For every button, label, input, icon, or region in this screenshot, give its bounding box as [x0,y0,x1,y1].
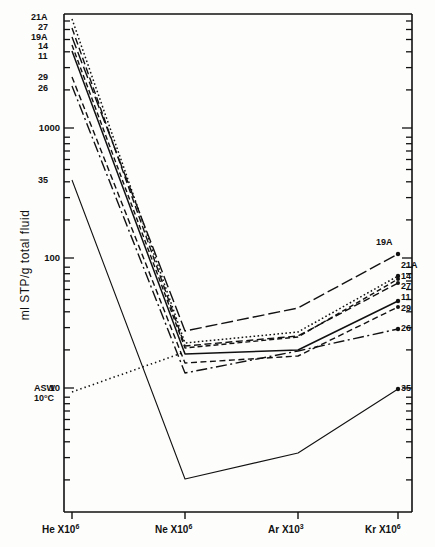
y-tick-label-1000: 1000 [20,122,60,133]
asw-annotation-line2: 10°C [34,393,54,403]
x-axis-label-kr: Kr X106 [365,524,401,535]
series-label-left-35: 35 [38,175,48,185]
x-axis-label-ne: Ne X106 [155,524,192,535]
line-chart-svg [0,0,435,547]
x-axis-label-ne-exp: 6 [188,523,192,530]
plot-frame [64,14,412,512]
y-axis-title: ml STP/g total fluid [18,180,32,350]
series-label-right-27: 27 [401,281,411,291]
series-label-right-26: 26 [401,323,411,333]
series-line-26 [72,86,398,373]
asw-annotation-line1: ASW [34,383,55,393]
series-label-right-14: 14 [401,271,411,281]
figure-panel: ml STP/g total fluid 1000 100 10 21A 27 … [0,0,435,547]
x-axis-label-kr-mult: X10 [379,524,397,535]
x-axis-label-he-text: He [42,524,55,535]
series-line-14 [72,45,398,348]
x-axis-ticks [72,512,398,519]
series-label-left-27: 27 [38,22,48,32]
series-line-asw [72,352,185,392]
data-series-group [72,19,398,479]
y-axis-ticks [64,21,74,480]
x-axis-label-he-mult: X10 [58,524,76,535]
series-line-27 [72,28,398,346]
series-label-right-35: 35 [401,383,411,393]
y-tick-label-100: 100 [20,252,60,263]
series-label-right-29: 29 [401,303,411,313]
series-label-left-11: 11 [38,51,48,61]
x-axis-label-he-exp: 6 [75,523,79,530]
series-label-left-26: 26 [38,83,48,93]
series-label-right-21A: 21A [401,260,418,270]
endpoint-markers [396,252,400,391]
series-label-right-11: 11 [401,292,411,302]
x-axis-label-ne-mult: X10 [171,524,189,535]
series-label-left-21A: 21A [31,12,48,22]
series-label-left-29: 29 [38,72,48,82]
x-axis-label-kr-exp: 6 [397,523,401,530]
x-axis-label-ar-text: Ar [268,524,279,535]
x-axis-label-ar-mult: X10 [282,524,300,535]
y-axis-ticks-right [402,21,412,480]
x-axis-label-ne-text: Ne [155,524,168,535]
x-axis-label-he: He X106 [42,524,79,535]
series-line-35 [72,180,398,479]
series-label-left-14: 14 [38,41,48,51]
x-axis-label-ar-exp: 3 [300,523,304,530]
series-label-right-19A: 19A [376,237,393,247]
series-line-29 [72,77,398,363]
x-axis-label-kr-text: Kr [365,524,376,535]
x-axis-label-ar: Ar X103 [268,524,304,535]
